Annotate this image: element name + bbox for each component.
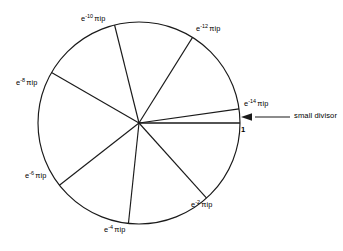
small-divisor-arrow xyxy=(241,113,290,121)
spoke-label-e-14: e-14πip xyxy=(244,100,268,107)
label-tail: πip xyxy=(201,200,212,209)
label-exponent: -2 xyxy=(195,199,200,205)
spoke-e-6 xyxy=(59,123,139,185)
spoke-label-e-12: e-12πip xyxy=(196,25,220,32)
spoke-label-e-10: e-10πip xyxy=(81,15,105,22)
figure-root: e-14πipe-12πipe-10πipe-8πipe-6πipe-4πipe… xyxy=(0,0,343,251)
label-tail: πip xyxy=(35,171,46,180)
spoke-label-e-6: e-6πip xyxy=(25,172,46,179)
label-exponent: -10 xyxy=(85,13,93,19)
arrow-head xyxy=(241,113,252,121)
axis-label-one: 1 xyxy=(241,126,245,134)
label-tail: πip xyxy=(209,24,220,33)
label-tail: πip xyxy=(114,225,125,234)
spoke-e-10 xyxy=(115,25,139,123)
spoke-label-e-8: e-8πip xyxy=(16,79,37,86)
spoke-label-e-4: e-4πip xyxy=(104,226,125,233)
spoke-e-2 xyxy=(139,123,207,198)
spoke-e-14 xyxy=(139,109,239,123)
label-exponent: -4 xyxy=(108,224,113,230)
label-exponent: -12 xyxy=(200,23,208,29)
label-exponent: -8 xyxy=(20,77,25,83)
spoke-e-12 xyxy=(139,37,193,123)
spoke-e-4 xyxy=(128,123,139,223)
circle-diagram-canvas xyxy=(0,0,343,251)
label-exponent: -6 xyxy=(29,170,34,176)
label-tail: πip xyxy=(94,14,105,23)
label-tail: πip xyxy=(257,99,268,108)
label-exponent: -14 xyxy=(248,98,256,104)
spoke-label-e-2: e-2πip xyxy=(191,201,212,208)
diagram-geometry xyxy=(38,22,290,224)
label-tail: πip xyxy=(26,78,37,87)
spoke-e-8 xyxy=(52,73,139,124)
small-divisor-label: small divisor xyxy=(294,112,337,120)
